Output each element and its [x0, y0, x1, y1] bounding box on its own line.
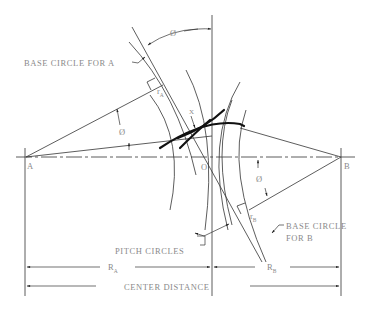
label-pitch-circles: PITCH CIRCLES	[115, 246, 184, 256]
label-point-x: X	[189, 108, 194, 116]
label-base-circle-b-line1: BASE CIRCLE	[286, 221, 347, 231]
label-radius-a: RA	[108, 262, 118, 274]
label-pressure-angle-b: Ø	[256, 174, 262, 184]
base-circle-a-leader	[132, 57, 145, 63]
gear-geometry-diagram: BASE CIRCLE FOR A BASE CIRCLE FOR B PITC…	[0, 0, 368, 309]
label-point-o: O	[201, 162, 207, 172]
point-x-leader	[191, 116, 195, 128]
angle-a-arrow-upper	[117, 109, 120, 125]
line-b-to-contact	[240, 128, 341, 157]
pitch-circle-b-pointer	[204, 224, 229, 236]
label-base-circle-b-line2: FOR B	[286, 233, 313, 243]
label-point-a: A	[27, 161, 34, 171]
label-radius-b: RB	[267, 262, 277, 274]
base-radius-line-b	[249, 157, 341, 210]
pitch-circles-leader	[197, 236, 205, 245]
label-pressure-angle-a: Ø	[119, 127, 125, 137]
right-angle-mark-b	[237, 203, 245, 214]
angle-b-arrow-lower	[265, 188, 267, 196]
label-center-distance: CENTER DISTANCE	[124, 282, 210, 292]
base-radius-line-a	[26, 85, 163, 157]
label-pressure-angle-top: Ø	[170, 28, 176, 38]
label-point-b: B	[344, 161, 350, 171]
addendum-arc-b	[222, 100, 232, 225]
label-base-radius-b: rB	[250, 211, 257, 223]
addendum-arc-a	[150, 95, 175, 210]
base-circle-b-arc	[239, 110, 266, 262]
base-circle-b-leader	[272, 225, 284, 233]
pitch-circle-a-pointer	[195, 233, 204, 236]
line-of-action	[132, 27, 262, 262]
right-angle-mark-a	[147, 78, 155, 90]
label-base-circle-a: BASE CIRCLE FOR A	[24, 58, 115, 68]
line-a-to-contact	[26, 136, 212, 157]
